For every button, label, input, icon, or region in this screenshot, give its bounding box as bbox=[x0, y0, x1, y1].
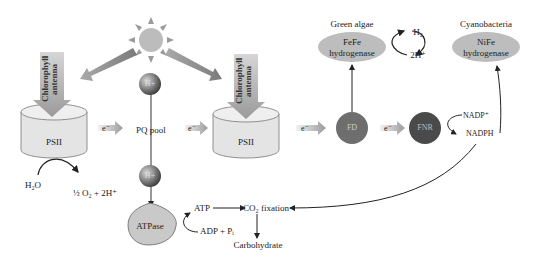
fnr-label: FNR bbox=[417, 124, 433, 132]
carbohydrate-label: Carbohydrate bbox=[234, 241, 283, 250]
nife-label-line1: NiFe bbox=[477, 38, 495, 47]
electron-label-1: e⁻ bbox=[102, 125, 110, 133]
h2-cycle-arrow-left bbox=[392, 31, 407, 55]
nadph-to-nife-arrow bbox=[497, 66, 501, 133]
fefe-label-line2: hydrogenase bbox=[329, 49, 374, 58]
fefe-label-line1: FeFe bbox=[343, 38, 361, 47]
water-label: H₂O bbox=[25, 181, 41, 190]
cyanobacteria-label: Cyanobacteria bbox=[460, 20, 512, 29]
h-plus-bottom-label: H+ bbox=[145, 172, 155, 180]
h-plus-top-label: H+ bbox=[145, 80, 155, 88]
green-algae-label: Green algae bbox=[330, 20, 373, 29]
psii-1-label: PSII bbox=[46, 138, 62, 147]
atp-cycle-arrow bbox=[184, 213, 198, 232]
two-h-plus-label: 2H⁺ bbox=[410, 51, 426, 60]
pq-pool-label: PQ pool bbox=[136, 126, 166, 135]
light-arrow-left bbox=[80, 48, 137, 81]
atpase-label: ATPase bbox=[136, 222, 164, 231]
water-split-arrow bbox=[38, 159, 78, 175]
diagram-canvas: Chlorophyll antenna Chlorophyll antenna … bbox=[0, 0, 542, 262]
nadp-cycle-arrow bbox=[448, 115, 462, 134]
nife-label-line2: hydrogenase bbox=[463, 49, 508, 58]
antenna-1-label: Chlorophyll antenna bbox=[41, 56, 63, 102]
psii-2-label: PSII bbox=[238, 138, 254, 147]
electron-label-2: e⁻ bbox=[188, 125, 196, 133]
nadph-label: NADPH bbox=[466, 130, 494, 138]
fd-label: FD bbox=[347, 124, 357, 132]
diagram-graphics bbox=[0, 0, 542, 262]
atp-label: ATP bbox=[194, 204, 210, 213]
electron-label-4: e⁻ bbox=[384, 125, 392, 133]
sun-icon bbox=[128, 17, 174, 63]
oxygen-label: ½ O₂ + 2H⁺ bbox=[73, 189, 117, 198]
adp-label: ADP + Pᵢ bbox=[200, 227, 234, 236]
antenna-2-label: Chlorophyll antenna bbox=[235, 58, 257, 104]
electron-label-3: e⁻ bbox=[301, 125, 309, 133]
h2-label: H₂ bbox=[413, 28, 423, 37]
co2-fixation-label: CO₂ fixation bbox=[243, 204, 289, 213]
nadp-label: NADP⁺ bbox=[463, 112, 489, 120]
light-arrow-right bbox=[165, 48, 222, 81]
nadph-to-co2-arrow bbox=[290, 144, 476, 208]
